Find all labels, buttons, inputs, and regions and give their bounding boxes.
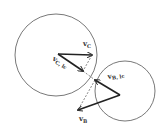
vector-v-c xyxy=(58,54,92,55)
vector-v-b xyxy=(78,95,120,110)
label-v-b-lc: vB, lc xyxy=(106,69,125,81)
label-v-c: vC xyxy=(82,39,91,49)
dashed-line-c xyxy=(83,55,92,71)
circle-body-b xyxy=(95,61,155,121)
velocity-diagram: vC vC, lc vB, lc vB xyxy=(0,0,165,133)
vector-v-b-lc xyxy=(95,80,120,95)
label-v-b: vB xyxy=(78,114,87,124)
